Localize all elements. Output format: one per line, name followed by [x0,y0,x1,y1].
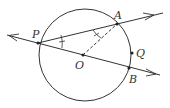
label-q: Q [136,47,145,60]
label-o: O [75,59,84,72]
segment-oa-dashed [83,24,117,55]
point-a [115,22,118,25]
diagram-canvas: P A O Q B [0,0,170,108]
point-q [130,51,133,54]
angle-tick-a [94,33,99,36]
geometry-diagram: P A O Q B [0,0,170,108]
label-b: B [128,73,137,86]
angle-tick-p [59,41,65,42]
point-p [36,41,39,44]
line-pa [38,13,163,43]
point-o [81,53,84,56]
label-p: P [31,28,40,41]
label-a: A [113,9,122,22]
point-b [127,66,130,69]
